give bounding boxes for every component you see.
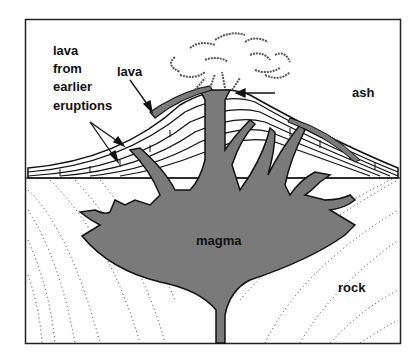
volcano-diagram: lava from earlier eruptions lava ash mag… bbox=[0, 0, 420, 364]
label-lava-earlier: eruptions bbox=[53, 98, 112, 113]
label-lava-earlier: lava bbox=[53, 43, 79, 58]
label-ash: ash bbox=[352, 85, 374, 100]
label-rock: rock bbox=[338, 280, 366, 295]
label-lava-earlier: earlier bbox=[53, 79, 92, 94]
label-lava-earlier: from bbox=[53, 61, 82, 76]
label-magma: magma bbox=[196, 233, 242, 248]
label-lava: lava bbox=[117, 64, 143, 79]
